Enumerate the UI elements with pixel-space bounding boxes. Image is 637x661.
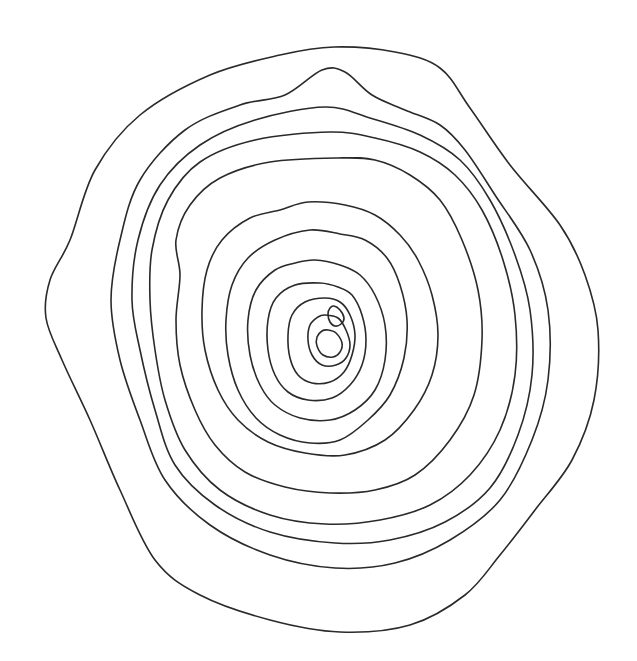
contour-rings-figure bbox=[0, 0, 637, 661]
background bbox=[0, 0, 637, 661]
